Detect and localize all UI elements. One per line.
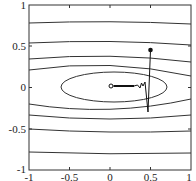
x-tick-label: 1 [186, 171, 192, 181]
contour-line [29, 129, 191, 132]
contour-line [29, 41, 191, 45]
y-tick-label: 0 [21, 81, 27, 93]
contour-line [29, 65, 191, 76]
y-axis-labels: 1 0.5 0 -0.5 -1 [9, 0, 27, 175]
contour-line [29, 115, 191, 119]
x-tick-label: 0 [107, 171, 113, 181]
contour-line [29, 152, 191, 154]
end-point-marker [109, 84, 113, 88]
y-tick-label: 1 [21, 0, 27, 11]
start-point-marker [148, 48, 153, 53]
contour-plot: 1 0.5 0 -0.5 -1 -1 -0.5 0 0.5 1 [0, 0, 196, 181]
contour-line [29, 56, 191, 62]
x-tick-label: -0.5 [61, 171, 79, 181]
x-tick-label: 0.5 [144, 171, 158, 181]
y-tick-label: -0.5 [9, 123, 27, 135]
y-tick-label: 0.5 [12, 40, 26, 52]
x-tick-label: -1 [24, 171, 33, 181]
contour-line [29, 99, 191, 109]
x-axis-labels: -1 -0.5 0 0.5 1 [24, 171, 191, 181]
contour-line [29, 22, 191, 24]
